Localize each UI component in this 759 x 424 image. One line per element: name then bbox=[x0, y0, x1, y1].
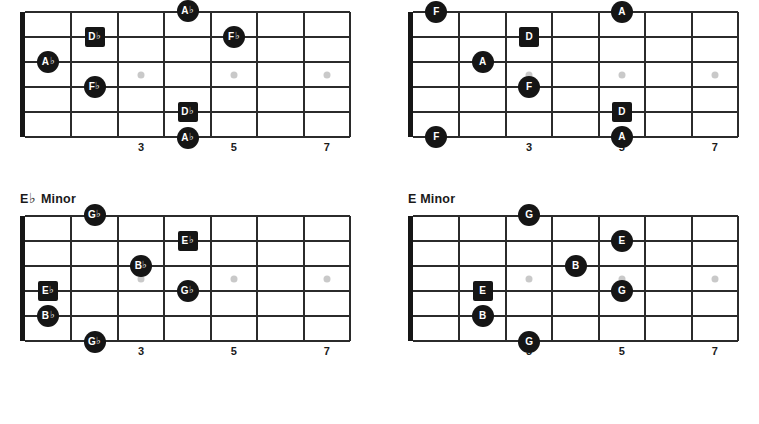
flat-accidental-glyph: ♭ bbox=[96, 31, 101, 41]
note-marker: E bbox=[611, 230, 633, 252]
note-label: E bbox=[619, 236, 626, 246]
note-label: F bbox=[228, 32, 234, 42]
fret-line bbox=[458, 216, 460, 341]
note-label: D bbox=[181, 107, 188, 117]
fret-grid bbox=[413, 216, 738, 341]
fret-line bbox=[256, 216, 258, 341]
fret-line bbox=[349, 12, 351, 137]
fret-line bbox=[303, 12, 305, 137]
fret-line bbox=[551, 216, 553, 341]
fretboard-d-minor: 357FADAFDFA bbox=[408, 12, 738, 137]
note-marker: F♭ bbox=[223, 26, 245, 48]
fret-inlay-dot bbox=[323, 71, 330, 78]
note-marker: D bbox=[519, 27, 539, 47]
fret-number: 5 bbox=[231, 345, 237, 357]
note-marker: E♭ bbox=[178, 231, 198, 251]
note-label: E bbox=[479, 286, 486, 296]
note-label: G bbox=[88, 337, 96, 347]
note-label: B bbox=[135, 261, 142, 271]
fretboard-ab-minor: 357A♭D♭F♭A♭F♭D♭A♭ bbox=[20, 12, 350, 137]
note-label: G bbox=[181, 286, 189, 296]
scale-diagrams-page: A♭ Minor357A♭D♭F♭A♭F♭D♭A♭D Minor357FADAF… bbox=[0, 0, 759, 424]
fret-number: 5 bbox=[231, 141, 237, 153]
fret-line bbox=[691, 12, 693, 137]
note-marker: A♭ bbox=[177, 0, 199, 22]
note-marker: E♭ bbox=[38, 281, 58, 301]
string-line bbox=[413, 36, 738, 38]
note-label: B bbox=[42, 311, 49, 321]
note-label: D bbox=[525, 32, 532, 42]
note-label: B bbox=[572, 261, 579, 271]
fret-line bbox=[70, 12, 72, 137]
string-line bbox=[25, 340, 350, 342]
string-line bbox=[25, 315, 350, 317]
fret-number: 5 bbox=[619, 345, 625, 357]
note-marker: A♭ bbox=[177, 127, 199, 149]
fretboard-e-minor: 357GEBEGBG bbox=[408, 216, 738, 341]
fret-line bbox=[210, 12, 212, 137]
flat-accidental-glyph: ♭ bbox=[96, 209, 101, 219]
flat-accidental-glyph: ♭ bbox=[29, 191, 38, 206]
fret-line bbox=[505, 216, 507, 341]
note-marker: D bbox=[612, 102, 632, 122]
fret-number: 7 bbox=[712, 345, 718, 357]
note-label: A bbox=[181, 133, 188, 143]
scale-diagram-d-minor: D Minor357FADAFDFA bbox=[396, 0, 759, 188]
note-label: G bbox=[88, 210, 96, 220]
fret-number: 7 bbox=[324, 141, 330, 153]
string-line bbox=[413, 111, 738, 113]
flat-accidental-glyph: ♭ bbox=[49, 285, 54, 295]
fret-line bbox=[551, 12, 553, 137]
note-marker: F bbox=[425, 126, 447, 148]
fret-line bbox=[303, 216, 305, 341]
scale-diagram-eb-minor: E♭ Minor357G♭E♭B♭E♭G♭B♭G♭ bbox=[8, 192, 374, 392]
flat-accidental-glyph: ♭ bbox=[189, 285, 194, 295]
fret-line bbox=[598, 216, 600, 341]
note-label: G bbox=[525, 210, 533, 220]
fret-inlay-dot bbox=[711, 71, 718, 78]
fret-line bbox=[163, 216, 165, 341]
fret-line bbox=[349, 216, 351, 341]
fret-line bbox=[256, 12, 258, 137]
note-label: E bbox=[42, 286, 49, 296]
fret-line bbox=[70, 216, 72, 341]
fret-grid bbox=[413, 12, 738, 137]
diagram-title-root: E bbox=[408, 192, 417, 206]
flat-accidental-glyph: ♭ bbox=[189, 106, 194, 116]
string-line bbox=[413, 61, 738, 63]
note-marker: B♭ bbox=[130, 255, 152, 277]
string-line bbox=[25, 215, 350, 217]
note-marker: D♭ bbox=[178, 102, 198, 122]
note-marker: F bbox=[425, 1, 447, 23]
note-marker: A bbox=[611, 126, 633, 148]
note-marker: G bbox=[518, 204, 540, 226]
note-marker: G♭ bbox=[84, 331, 106, 353]
note-label: A bbox=[181, 6, 188, 16]
note-marker: E bbox=[473, 281, 493, 301]
fret-line bbox=[737, 12, 739, 137]
fret-line bbox=[117, 216, 119, 341]
string-line bbox=[413, 240, 738, 242]
flat-accidental-glyph: ♭ bbox=[50, 56, 55, 66]
string-line bbox=[25, 61, 350, 63]
note-marker: D♭ bbox=[85, 27, 105, 47]
diagram-title-root: E bbox=[20, 192, 29, 206]
fret-inlay-dot bbox=[711, 275, 718, 282]
fret-inlay-dot bbox=[138, 71, 145, 78]
note-label: G bbox=[618, 286, 626, 296]
diagram-title-suffix: Minor bbox=[417, 192, 456, 206]
note-marker: A♭ bbox=[37, 51, 59, 73]
flat-accidental-glyph: ♭ bbox=[235, 31, 240, 41]
flat-accidental-glyph: ♭ bbox=[96, 336, 101, 346]
note-label: B bbox=[479, 311, 486, 321]
fret-inlay-dot bbox=[323, 275, 330, 282]
note-label: G bbox=[525, 337, 533, 347]
string-line bbox=[25, 36, 350, 38]
note-marker: G♭ bbox=[177, 280, 199, 302]
note-marker: F♭ bbox=[84, 76, 106, 98]
note-marker: A bbox=[611, 1, 633, 23]
note-label: F bbox=[433, 132, 439, 142]
string-line bbox=[413, 86, 738, 88]
fret-inlay-dot bbox=[230, 275, 237, 282]
diagram-title-eb-minor: E♭ Minor bbox=[20, 192, 76, 206]
